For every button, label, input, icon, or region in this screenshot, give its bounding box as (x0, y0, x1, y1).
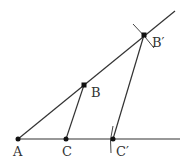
segment-b-prime-c-prime (113, 35, 144, 139)
label-b: B (91, 85, 101, 100)
label-c: C (62, 144, 72, 159)
label-c-prime: C′ (116, 144, 129, 159)
similar-triangles-diagram: A B C B′ C′ (0, 0, 189, 162)
point-b (82, 83, 87, 88)
point-b-prime (142, 33, 147, 38)
point-c-prime (111, 137, 116, 142)
ray-a-b-prime (18, 11, 175, 139)
point-a (16, 137, 21, 142)
label-b-prime: B′ (152, 35, 165, 50)
point-c (64, 137, 69, 142)
label-a: A (12, 144, 23, 159)
